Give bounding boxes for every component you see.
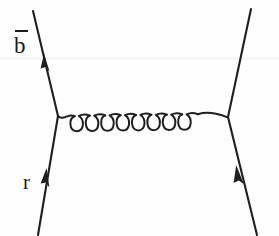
gluon-coil-8 bbox=[178, 113, 197, 130]
label-quark-r: r bbox=[23, 172, 30, 193]
upper-right-fermion-line bbox=[228, 9, 251, 117]
scan-artifact-band bbox=[0, 57, 279, 60]
label-antiquark-b-glyph: b bbox=[14, 34, 28, 57]
gluon-right-hook bbox=[198, 113, 228, 118]
lower-left-fermion-line bbox=[38, 116, 58, 235]
overline-bar-icon bbox=[15, 30, 28, 32]
gluon-propagator bbox=[59, 113, 228, 131]
upper-left-arrow-icon bbox=[41, 54, 50, 72]
feynman-diagram-canvas: b r bbox=[0, 0, 279, 236]
feynman-diagram-svg bbox=[0, 0, 279, 236]
label-antiquark-b: b bbox=[14, 30, 28, 57]
lower-right-fermion-line bbox=[228, 117, 257, 235]
